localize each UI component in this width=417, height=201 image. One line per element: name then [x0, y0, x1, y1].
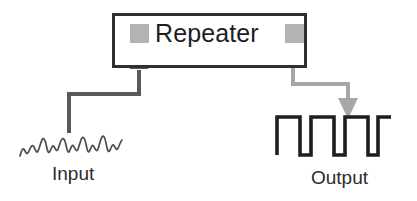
input-port-square-icon — [130, 24, 149, 43]
input-connector-line — [69, 70, 139, 133]
diagram-canvas: Repeater Input Output — [0, 0, 417, 201]
output-label: Output — [311, 167, 368, 189]
input-waveform — [20, 136, 122, 156]
output-port-square-icon — [285, 24, 304, 43]
input-waveform-path — [20, 136, 122, 156]
input-label: Input — [52, 163, 94, 185]
repeater-label: Repeater — [155, 19, 259, 48]
output-waveform — [277, 117, 391, 155]
output-waveform-path — [277, 117, 391, 155]
